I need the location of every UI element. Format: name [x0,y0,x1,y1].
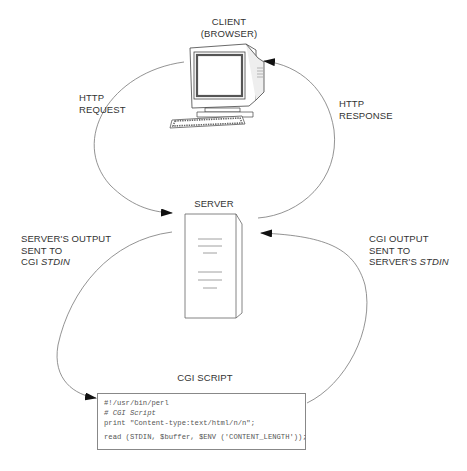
server-to-cgi-line1: SERVER'S OUTPUT [21,233,111,245]
cgi-script-label: CGI SCRIPT [170,372,240,384]
cgi-to-server-line2: SENT TO [369,245,449,257]
cgi-to-server-arrow [261,233,367,403]
client-title: CLIENT [194,16,264,28]
code-line-print: print "Content-type:text/html/n/n"; [104,418,299,428]
cgi-to-server-line3-prefix: SERVER'S [369,256,420,267]
code-line-read: read (STDIN, $buffer, $ENV ('CONTENT_LEN… [104,432,299,442]
http-request-line2: REQUEST [79,104,126,116]
client-subtitle: (BROWSER) [194,28,264,40]
cgi-to-server-line3: SERVER'S STDIN [369,256,449,268]
server-to-cgi-line2: SENT TO [21,245,111,257]
cgi-to-server-line1: CGI OUTPUT [369,233,449,245]
code-line-comment: # CGI Script [104,408,299,418]
client-computer-icon [170,44,264,128]
server-to-cgi-label: SERVER'S OUTPUT SENT TO CGI STDIN [21,233,111,268]
server-label: SERVER [185,198,243,210]
server-to-cgi-line3: CGI STDIN [21,256,111,268]
cgi-to-server-label: CGI OUTPUT SENT TO SERVER'S STDIN [369,233,449,268]
server-to-cgi-stdin: STDIN [41,256,70,267]
http-response-label: HTTP RESPONSE [339,98,393,121]
server-to-cgi-line3-prefix: CGI [21,256,41,267]
cgi-to-server-stdin: STDIN [420,256,449,267]
cgi-script-code-box: #!/usr/bin/perl # CGI Script print "Cont… [97,393,306,450]
http-response-arrow [258,61,335,218]
http-request-line1: HTTP [79,92,126,104]
http-request-arrow [94,62,184,213]
client-label: CLIENT (BROWSER) [194,16,264,39]
http-response-line1: HTTP [339,98,393,110]
http-response-line2: RESPONSE [339,110,393,122]
server-tower-icon [185,214,242,318]
http-request-label: HTTP REQUEST [79,92,126,115]
code-line-shebang: #!/usr/bin/perl [104,398,299,408]
